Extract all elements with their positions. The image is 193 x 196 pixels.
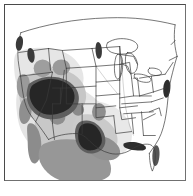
- region-central-plains-spot: [92, 103, 106, 121]
- map-svg: [5, 5, 185, 180]
- map-frame: [4, 4, 186, 181]
- figure-root: [0, 0, 193, 196]
- region-montana-blob: [52, 59, 70, 75]
- figure-caption: [4, 182, 186, 194]
